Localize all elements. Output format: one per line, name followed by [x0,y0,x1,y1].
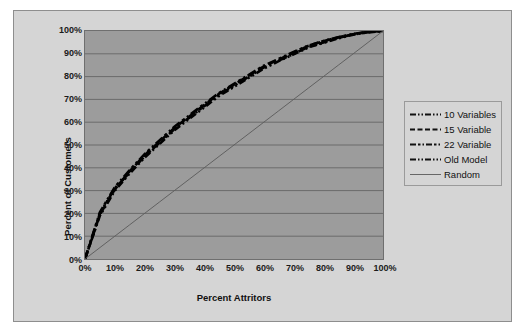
legend-item-label: 22 Variable [442,139,491,150]
legend-swatch-solid-thin [409,169,442,180]
legend-item-label: 10 Variables [442,109,496,120]
x-axis-tick-label: 0% [78,263,91,273]
plot-area [84,30,384,260]
y-axis-tick-label: 0% [38,256,82,265]
y-axis-tick-label: 80% [38,72,82,81]
x-axis-tick-label: 100% [373,263,396,273]
y-axis-tick-label: 10% [38,233,82,242]
chart-frame: Percent of Customers 0%10%20%30%40%50%60… [13,10,512,322]
x-axis-tick-labels: 0%10%20%30%40%50%60%70%80%90%100% [84,263,386,277]
legend-swatch-dash-dot-dash [409,139,442,150]
series-lines [85,31,383,259]
legend-item-label: Random [442,169,480,180]
x-axis-tick-label: 30% [166,263,184,273]
series-line [85,31,383,259]
legend-swatch-dashed [409,124,442,135]
legend-item[interactable]: 22 Variable [409,137,498,152]
chart-legend: 10 Variables15 Variable22 VariableOld Mo… [404,101,502,186]
x-axis-tick-label: 50% [226,263,244,273]
x-axis-tick-label: 10% [106,263,124,273]
legend-swatch-dash-dot-dot [409,154,442,165]
legend-swatch-dash-dot-dot [409,109,442,120]
x-axis-tick-label: 40% [196,263,214,273]
legend-item[interactable]: Old Model [409,152,498,167]
y-axis-tick-label: 30% [38,187,82,196]
legend-item[interactable]: 10 Variables [409,107,498,122]
x-axis-title: Percent Attritors [84,292,384,303]
x-axis-tick-label: 20% [136,263,154,273]
legend-item[interactable]: Random [409,167,498,182]
legend-item-label: 15 Variable [442,124,491,135]
y-axis-tick-labels: 0%10%20%30%40%50%60%70%80%90%100% [36,30,82,260]
y-axis-tick-label: 100% [38,26,82,35]
y-axis-tick-label: 70% [38,95,82,104]
x-axis-tick-label: 80% [316,263,334,273]
x-axis-tick-label: 70% [286,263,304,273]
x-axis-tick-label: 90% [346,263,364,273]
y-axis-tick-label: 40% [38,164,82,173]
legend-item-label: Old Model [442,154,487,165]
y-axis-tick-label: 50% [38,141,82,150]
y-axis-tick-label: 60% [38,118,82,127]
y-axis-tick-label: 20% [38,210,82,219]
legend-item[interactable]: 15 Variable [409,122,498,137]
x-axis-tick-label: 60% [256,263,274,273]
y-axis-tick-label: 90% [38,49,82,58]
